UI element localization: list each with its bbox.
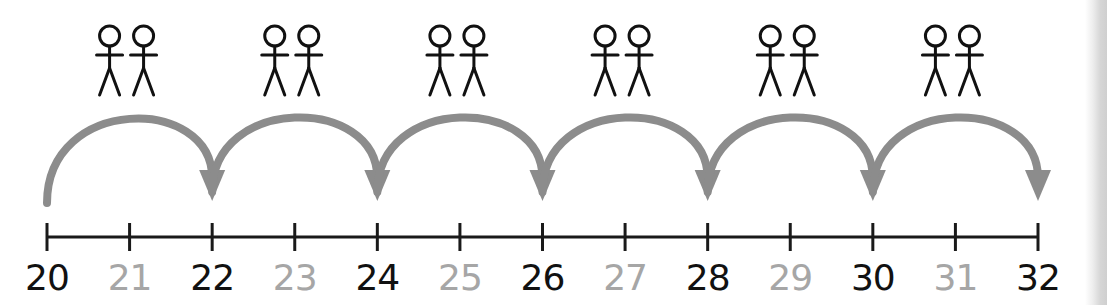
people-pairs [97,26,983,95]
tick-label-25: 25 [438,256,482,300]
tick-label-23: 23 [273,256,317,300]
number-line-axis [47,223,1038,251]
person-icon [262,26,288,95]
tick-label-28: 28 [686,256,730,300]
person-icon [956,26,982,95]
tick-label-30: 30 [851,256,895,300]
tick-label-27: 27 [603,256,647,300]
number-line-diagram: 20212223242526272829303132 [0,0,1107,305]
jump-arrow-icon [377,117,555,201]
jump-arrows [47,117,1051,203]
tick-label-22: 22 [190,256,234,300]
person-icon [97,26,123,95]
pair-of-people-icon [97,26,157,95]
pair-of-people-icon [262,26,322,95]
tick-label-31: 31 [934,256,978,300]
pair-of-people-icon [592,26,652,95]
tick-label-24: 24 [355,256,399,300]
tick-label-20: 20 [25,256,69,300]
person-icon [626,26,652,95]
jump-arrow-icon [873,117,1051,201]
person-icon [427,26,453,95]
person-icon [922,26,948,95]
jump-arrow-icon [212,117,390,201]
tick-label-29: 29 [768,256,812,300]
tick-label-32: 32 [1016,256,1060,300]
person-icon [791,26,817,95]
page-gutter-shadow [1085,0,1107,305]
jump-arrow-icon [543,117,721,201]
person-icon [131,26,157,95]
pair-of-people-icon [757,26,817,95]
jump-arrow-icon [708,117,886,201]
person-icon [461,26,487,95]
jump-arrow-icon [47,119,225,203]
person-icon [757,26,783,95]
tick-label-26: 26 [521,256,565,300]
person-icon [592,26,618,95]
pair-of-people-icon [427,26,487,95]
pair-of-people-icon [922,26,982,95]
person-icon [296,26,322,95]
tick-label-21: 21 [108,256,152,300]
